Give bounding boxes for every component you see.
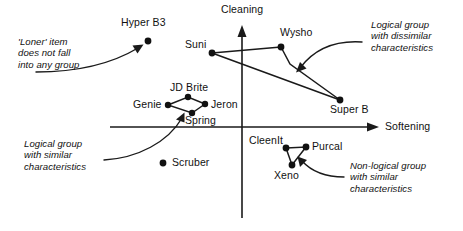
perceptual-map: Cleaning Softening Hyper B3 Suni Wysho S… xyxy=(0,0,463,231)
annotation-dissimilar: Logical group with dissimilar characteri… xyxy=(371,19,433,53)
leader-loner-arrowhead xyxy=(133,45,144,54)
annotation-nonlogical-line2: with similar xyxy=(350,171,426,182)
annotation-loner-line1: 'Loner' item xyxy=(18,36,80,47)
point-label-genie: Genie xyxy=(133,98,162,110)
point-label-jeron: Jeron xyxy=(211,98,238,110)
annotation-loner-line3: into any group xyxy=(18,59,80,70)
point-label-suni: Suni xyxy=(185,38,206,50)
x-axis-label: Softening xyxy=(385,120,430,132)
annotation-nonlogical: Non-logical group with similar character… xyxy=(350,160,426,194)
point-label-hyper-b3: Hyper B3 xyxy=(121,16,166,28)
point-label-xeno: Xeno xyxy=(274,169,299,181)
annotation-dissimilar-line1: Logical group xyxy=(371,19,433,30)
dot-wysho xyxy=(278,44,285,51)
annotation-similar-line3: characteristics xyxy=(24,161,86,172)
leader-dissimilar-curve xyxy=(300,42,362,68)
leader-nonlogical-curve xyxy=(302,161,344,177)
leader-similar xyxy=(104,113,185,161)
annotation-dissimilar-line3: characteristics xyxy=(371,42,433,53)
link-wysho-superb xyxy=(281,47,340,100)
dot-jeron xyxy=(202,101,208,107)
leader-nonlogical xyxy=(298,157,345,178)
dot-cleenit xyxy=(283,145,290,152)
dot-purcal xyxy=(303,144,310,151)
dot-suni xyxy=(209,50,216,57)
dot-xeno xyxy=(289,162,296,169)
annotation-similar-line2: with similar xyxy=(24,149,86,160)
annotation-nonlogical-line3: characteristics xyxy=(350,183,426,194)
leader-similar-curve xyxy=(104,118,182,160)
dot-scruber xyxy=(160,160,167,167)
link-suni-wysho xyxy=(212,47,281,53)
x-axis-arrowhead xyxy=(367,123,379,132)
point-label-wysho: Wysho xyxy=(280,26,313,38)
point-label-jd-brite: JD Brite xyxy=(170,81,208,93)
y-axis-arrowhead xyxy=(238,25,247,37)
axis-group xyxy=(110,25,379,218)
leader-dissimilar-arrowhead xyxy=(296,62,307,73)
link-suni-superb xyxy=(212,53,340,100)
point-label-super-b: Super B xyxy=(330,103,369,115)
leader-similar-arrowhead xyxy=(176,113,185,123)
y-axis-label: Cleaning xyxy=(221,3,263,15)
dot-jd-brite xyxy=(185,94,191,100)
point-label-scruber: Scruber xyxy=(172,156,209,168)
point-label-cleenit: CleenIt xyxy=(249,134,283,146)
annotation-dissimilar-line2: with dissimilar xyxy=(371,30,433,41)
leader-dissimilar xyxy=(296,42,362,73)
point-label-spring: Spring xyxy=(185,114,216,126)
annotation-loner: 'Loner' item does not fall into any grou… xyxy=(18,36,80,70)
annotation-loner-line2: does not fall xyxy=(18,47,80,58)
dot-hyper-b3 xyxy=(145,38,152,45)
dot-genie xyxy=(165,102,171,108)
annotation-nonlogical-line1: Non-logical group xyxy=(350,160,426,171)
annotation-similar-line1: Logical group xyxy=(24,138,86,149)
annotation-similar: Logical group with similar characteristi… xyxy=(24,138,86,172)
point-label-purcal: Purcal xyxy=(312,140,342,152)
group-dissimilar-chain xyxy=(212,47,340,100)
